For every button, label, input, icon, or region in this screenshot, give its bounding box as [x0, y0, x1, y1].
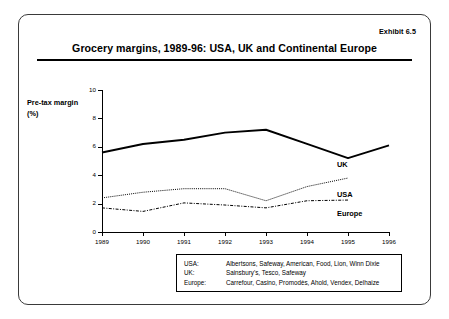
x-tick-label: 1989 [95, 238, 109, 245]
series-label-europe: Europe [337, 209, 362, 218]
legend-row-value: Carrefour, Casino, Promodès, Ahold, Vend… [226, 278, 379, 287]
y-tick-label: 6 [93, 142, 96, 149]
x-tick-label: 1993 [259, 238, 273, 245]
y-tick-label: 4 [93, 171, 96, 178]
legend-row: Europe:Carrefour, Casino, Promodès, Ahol… [184, 278, 395, 287]
x-tick-label: 1990 [136, 238, 150, 245]
series-line-uk [102, 130, 389, 158]
page-title: Grocery margins, 1989-96: USA, UK and Co… [19, 42, 430, 54]
series-line-europe [102, 200, 348, 211]
x-tick-label: 1991 [177, 238, 191, 245]
legend-row-key: Europe: [184, 278, 226, 287]
title-divider [37, 59, 412, 61]
legend-row: UK:Sainsbury's, Tesco, Safeway [184, 268, 395, 277]
legend-row-value: Sainsbury's, Tesco, Safeway [226, 268, 306, 277]
x-tick-label: 1994 [300, 238, 314, 245]
series-label-usa: USA [337, 190, 353, 199]
x-tick-label: 1996 [382, 238, 396, 245]
legend-row: USA:Albertsons, Safeway, American, Food,… [184, 259, 395, 268]
slide-card: Exhibit 6.5 Grocery margins, 1989-96: US… [18, 14, 431, 305]
y-tick-label: 0 [93, 228, 96, 235]
exhibit-label: Exhibit 6.5 [379, 27, 416, 36]
y-axis-caption-line1: Pre-tax margin [27, 97, 107, 108]
series-line-usa [102, 178, 348, 201]
y-tick-label: 10 [89, 86, 96, 93]
legend-row-key: USA: [184, 259, 226, 268]
x-tick-label: 1995 [341, 238, 355, 245]
series-label-uk: UK [337, 160, 348, 169]
y-tick-label: 2 [93, 199, 96, 206]
source-legend-box: USA:Albertsons, Safeway, American, Food,… [176, 254, 402, 292]
x-tick-label: 1992 [218, 238, 232, 245]
y-tick-label: 8 [93, 114, 96, 121]
legend-row-value: Albertsons, Safeway, American, Food, Lio… [226, 259, 380, 268]
legend-row-key: UK: [184, 268, 226, 277]
